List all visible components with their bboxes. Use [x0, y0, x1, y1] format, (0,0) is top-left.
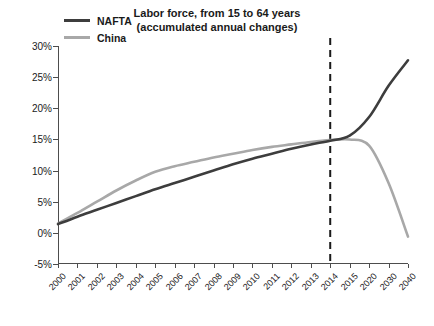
legend-swatch-nafta: [64, 19, 90, 22]
legend-label-nafta: NAFTA: [97, 15, 132, 27]
y-axis-tick-label: -5%: [34, 259, 52, 270]
line-series-nafta: [58, 60, 408, 224]
x-axis-tick-mark: [330, 264, 331, 268]
x-axis-tick-mark: [136, 264, 137, 268]
y-axis-tick-label: 30%: [32, 41, 52, 52]
x-axis-tick-mark: [369, 264, 370, 268]
x-axis-tick-mark: [350, 264, 351, 268]
y-axis-tick-mark: [53, 171, 58, 172]
chart-container: Labor force, from 15 to 64 years (accumu…: [0, 0, 434, 326]
legend-swatch-china: [64, 36, 90, 39]
x-axis-tick-mark: [252, 264, 253, 268]
x-axis-tick-mark: [214, 264, 215, 268]
y-axis-tick-label: 20%: [32, 103, 52, 114]
y-axis-tick-mark: [53, 77, 58, 78]
y-axis-tick-label: 15%: [32, 134, 52, 145]
x-axis-tick-mark: [194, 264, 195, 268]
x-axis-tick-mark: [291, 264, 292, 268]
series-lines: [58, 46, 408, 264]
y-axis-tick-mark: [53, 108, 58, 109]
x-axis-tick-mark: [175, 264, 176, 268]
legend-item-china: China: [64, 29, 132, 46]
y-axis-tick-label: 0%: [38, 227, 52, 238]
x-axis-tick-mark: [311, 264, 312, 268]
x-axis-tick-mark: [233, 264, 234, 268]
x-axis-tick-mark: [408, 264, 409, 268]
x-axis-tick-mark: [97, 264, 98, 268]
x-axis-tick-mark: [77, 264, 78, 268]
line-series-china: [58, 139, 408, 237]
chart-legend: NAFTA China: [64, 12, 132, 46]
x-axis-tick-mark: [155, 264, 156, 268]
legend-label-china: China: [97, 32, 126, 44]
x-axis-tick-mark: [116, 264, 117, 268]
y-axis-tick-mark: [53, 139, 58, 140]
y-axis-tick-label: 5%: [38, 196, 52, 207]
y-axis-tick-label: 25%: [32, 72, 52, 83]
y-axis-tick-mark: [53, 233, 58, 234]
x-axis-tick-mark: [389, 264, 390, 268]
y-axis-tick-mark: [53, 202, 58, 203]
chart-title-line1: Labor force, from 15 to 64 years: [134, 7, 301, 19]
y-axis-tick-label: 10%: [32, 165, 52, 176]
y-axis-tick-mark: [53, 46, 58, 47]
x-axis-tick-mark: [272, 264, 273, 268]
plot-area: -5%0%5%10%15%20%25%30%200020012002200320…: [58, 46, 408, 264]
x-axis-tick-mark: [58, 264, 59, 268]
legend-item-nafta: NAFTA: [64, 12, 132, 29]
